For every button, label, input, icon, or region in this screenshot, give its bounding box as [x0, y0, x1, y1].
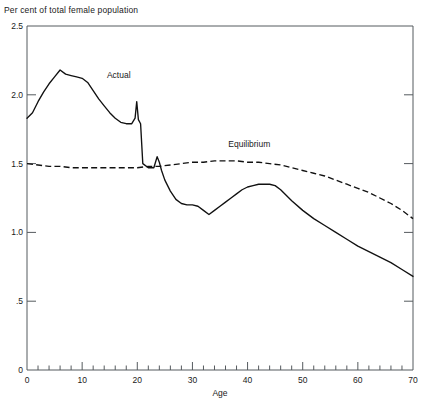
data-series — [27, 70, 413, 276]
series-annotation-actual: Actual — [107, 70, 131, 80]
chart-title: Per cent of total female population — [4, 5, 138, 15]
y-tick-label: .5 — [16, 296, 23, 306]
x-tick-label: 60 — [353, 375, 363, 385]
x-axis-label: Age — [212, 388, 227, 398]
y-axis-ticks — [27, 95, 413, 301]
x-tick-label: 50 — [298, 375, 308, 385]
x-tick-label: 10 — [77, 375, 87, 385]
x-axis-tick-labels: 010203040506070 — [25, 375, 418, 385]
series-annotation-equilibrium: Equilibrium — [228, 139, 270, 149]
x-tick-label: 40 — [243, 375, 253, 385]
y-tick-label: 0 — [18, 365, 23, 375]
y-tick-label: 2.5 — [11, 21, 23, 31]
x-tick-label: 0 — [25, 375, 30, 385]
y-tick-label: 1.5 — [11, 159, 23, 169]
x-axis-ticks — [38, 362, 402, 370]
plot-frame — [27, 26, 413, 370]
y-axis-tick-labels: 0.51.01.52.02.5 — [11, 21, 23, 375]
y-tick-label: 1.0 — [11, 227, 23, 237]
x-tick-label: 70 — [408, 375, 418, 385]
series-line-equilibrium — [27, 161, 413, 219]
chart-svg: Per cent of total female population 0.51… — [0, 0, 425, 402]
chart-figure: Per cent of total female population 0.51… — [0, 0, 425, 402]
series-line-actual — [27, 70, 413, 276]
plot-border — [27, 26, 413, 370]
y-tick-label: 2.0 — [11, 90, 23, 100]
x-tick-label: 30 — [188, 375, 198, 385]
series-annotations: ActualEquilibrium — [107, 70, 270, 149]
x-tick-label: 20 — [133, 375, 143, 385]
